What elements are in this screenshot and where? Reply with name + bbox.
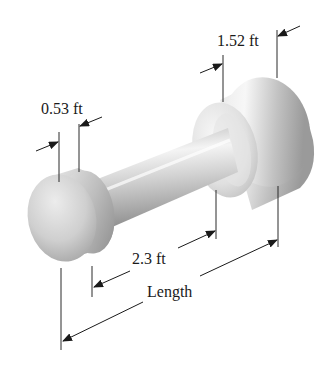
large-end-width-label: 1.52 ft	[217, 32, 259, 49]
shaft-body	[95, 128, 238, 228]
overall-length-label: Length	[147, 283, 192, 301]
dimension-overall-length: Length	[63, 240, 277, 341]
dimension-shaft-span: 2.3 ft	[94, 231, 215, 287]
shaft-diagram: 0.53 ft 1.52 ft 2.3 ft Length	[0, 0, 329, 374]
shaft-span-label: 2.3 ft	[132, 250, 166, 267]
small-end-width-label: 0.53 ft	[41, 100, 83, 117]
dimension-small-end-width: 0.53 ft	[36, 100, 102, 182]
